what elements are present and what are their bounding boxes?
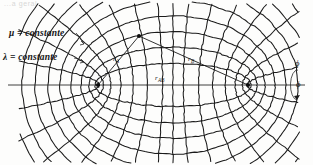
conic-curve — [183, 85, 188, 162]
conic-curve — [60, 2, 150, 163]
r-a-subscript: A — [116, 59, 119, 64]
conic-curve — [242, 85, 297, 127]
r-ab-subscript: AB — [158, 78, 165, 83]
conic-curve — [35, 2, 77, 162]
mu-constant-label: μ = constante — [9, 28, 65, 38]
conic-curve — [20, 134, 34, 162]
conic-curve — [275, 132, 299, 163]
figure-container: ...a geral μ = constante λ = constante r… — [0, 0, 313, 165]
phi-label-bottom: ϕ — [296, 79, 301, 89]
conic-curve — [158, 85, 163, 162]
conic-curve — [173, 4, 174, 85]
conic-curve — [134, 4, 147, 85]
conic-curve — [198, 4, 211, 85]
r-b-label: rB — [188, 55, 194, 64]
lambda-constant-label: λ = constante — [3, 52, 57, 62]
conic-curve — [292, 4, 297, 12]
phi-label-top: ϕ — [295, 58, 300, 68]
r-ab-label: rAB — [155, 74, 164, 83]
conic-curve — [111, 85, 133, 161]
r-b-subscript: B — [191, 59, 194, 64]
focus-point-a — [96, 83, 100, 87]
conic-curve — [212, 85, 235, 161]
r-a-label: rA — [113, 55, 119, 64]
conic-curve — [48, 2, 103, 163]
focus-point-b — [246, 83, 250, 87]
conic-curve — [173, 85, 174, 163]
field-point-p — [137, 34, 141, 38]
conic-curve — [296, 159, 298, 162]
